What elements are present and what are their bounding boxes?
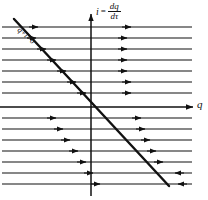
vertical-axis-label-equals: = <box>100 7 107 16</box>
derivative-fraction: dq dτ <box>108 2 121 21</box>
vertical-axis-label-symbol: i <box>96 7 99 17</box>
secondary-arrowheads-group <box>118 27 187 184</box>
horizontal-axis-label: q <box>197 99 203 110</box>
derivative-numerator: dq <box>108 2 121 11</box>
direction-field-canvas <box>0 0 208 200</box>
direction-field-figure: i = dq dτ q q+i=0 <box>0 0 208 200</box>
vertical-axis-label: i = dq dτ <box>96 2 121 21</box>
derivative-denominator: dτ <box>108 12 120 21</box>
flow-lines-group <box>2 27 192 184</box>
flow-arrowheads-group <box>27 27 100 184</box>
